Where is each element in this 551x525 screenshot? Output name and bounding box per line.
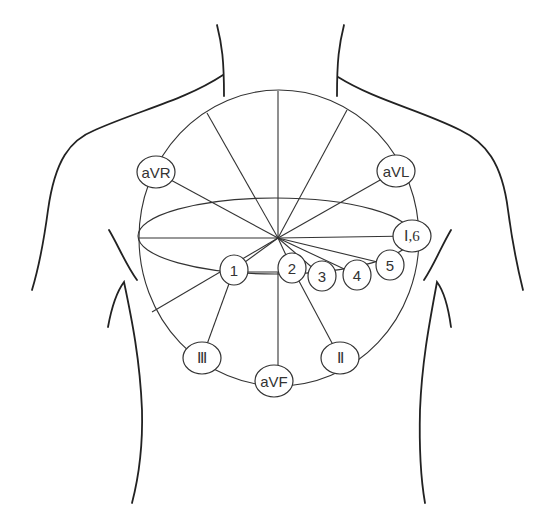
lead-label: 2 xyxy=(288,260,296,277)
axis-rays xyxy=(139,91,412,380)
lead-V3: 3 xyxy=(308,261,336,291)
lead-label: 5 xyxy=(386,257,394,274)
lead-label: 4 xyxy=(353,267,361,284)
lead-aVR: aVR xyxy=(137,156,175,188)
lead-label: Ⅱ xyxy=(337,350,344,366)
lead-label: aVF xyxy=(260,373,288,390)
lead-aVF: aVF xyxy=(255,365,293,397)
lead-label: aVL xyxy=(383,163,410,180)
lead-I-V6: Ⅰ,6 xyxy=(393,220,431,252)
torso-left-side xyxy=(108,282,142,503)
lead-II: Ⅱ xyxy=(321,342,359,374)
lead-label: 1 xyxy=(230,262,238,279)
shoulder-right xyxy=(338,77,523,290)
lead-aVL: aVL xyxy=(377,155,415,187)
lead-III: Ⅲ xyxy=(183,342,221,374)
lead-V1: 1 xyxy=(220,255,248,285)
lead-label: aVR xyxy=(141,164,170,181)
armpit-left-upper xyxy=(109,230,137,280)
lead-label: Ⅲ xyxy=(197,350,207,366)
lead-V4: 4 xyxy=(343,260,371,290)
lead-V2: 2 xyxy=(278,253,306,283)
neck-right xyxy=(337,25,344,96)
lead-label: Ⅰ,6 xyxy=(404,228,420,244)
shoulder-left xyxy=(32,75,223,290)
lead-V5: 5 xyxy=(376,250,404,280)
lead-label: 3 xyxy=(318,268,326,285)
ecg-lead-diagram: aVR aVL Ⅰ,6 Ⅲ aVF Ⅱ 1 2 3 4 5 xyxy=(0,0,551,525)
torso-right-side xyxy=(420,282,451,503)
neck-left xyxy=(217,25,224,96)
